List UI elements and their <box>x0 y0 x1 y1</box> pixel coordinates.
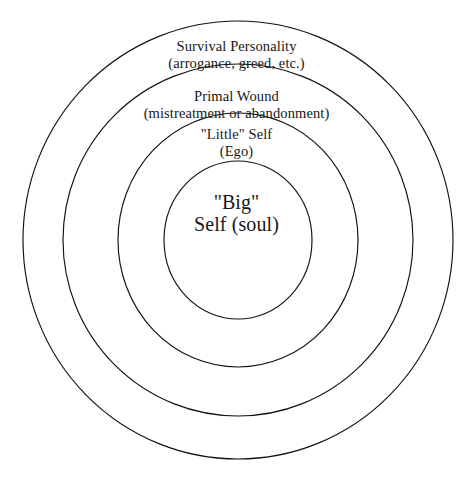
ring-survival-personality <box>23 21 453 459</box>
label-little-self-line1: "Little" Self <box>0 126 473 143</box>
label-big-self-line1: "Big" <box>0 191 473 213</box>
label-big-self-line2: Self (soul) <box>0 213 473 235</box>
ring-big-self <box>164 161 312 319</box>
rings-svg <box>0 0 473 484</box>
label-little-self: "Little" Self (Ego) <box>0 126 473 159</box>
label-little-self-line2: (Ego) <box>0 143 473 160</box>
label-big-self: "Big" Self (soul) <box>0 191 473 236</box>
label-survival-personality-line1: Survival Personality <box>0 38 473 55</box>
label-primal-wound: Primal Wound (mistreatment or abandonmen… <box>0 88 473 121</box>
label-survival-personality: Survival Personality (arrogance, greed, … <box>0 38 473 71</box>
concentric-self-diagram: Survival Personality (arrogance, greed, … <box>0 0 473 484</box>
label-primal-wound-line1: Primal Wound <box>0 88 473 105</box>
label-survival-personality-line2: (arrogance, greed, etc.) <box>0 55 473 72</box>
label-primal-wound-line2: (mistreatment or abandonment) <box>0 105 473 122</box>
